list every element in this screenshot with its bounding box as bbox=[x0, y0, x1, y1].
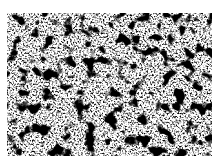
micrograph-image bbox=[7, 13, 212, 156]
micrograph-texture bbox=[7, 13, 212, 156]
